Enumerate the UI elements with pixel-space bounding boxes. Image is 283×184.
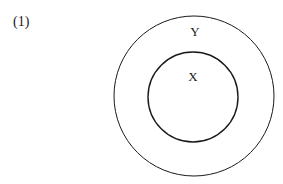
venn-diagram: Y X [0,0,283,184]
set-x-label: X [188,69,198,84]
set-y-circle [114,16,274,176]
set-x-circle [148,52,238,142]
set-y-label: Y [190,24,200,39]
